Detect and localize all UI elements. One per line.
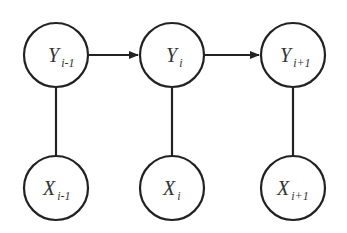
node-var: Y bbox=[48, 44, 61, 66]
node-sub: i bbox=[179, 56, 182, 70]
node-var: X bbox=[162, 177, 176, 199]
node-sub: i bbox=[177, 189, 180, 203]
node-var: Y bbox=[280, 44, 293, 66]
node-sub: i+1 bbox=[291, 189, 308, 203]
node-var: Y bbox=[166, 44, 179, 66]
node-y-cur: Yi bbox=[140, 23, 204, 87]
node-sub: i+1 bbox=[293, 56, 310, 70]
node-var: X bbox=[276, 177, 290, 199]
node-y-prev: Yi-1 bbox=[24, 23, 88, 87]
node-y-next: Yi+1 bbox=[261, 23, 325, 87]
node-sub: i-1 bbox=[57, 189, 70, 203]
graphical-model-diagram: Yi-1 Yi Yi+1 Xi-1 Xi Xi+1 bbox=[0, 0, 347, 233]
node-var: X bbox=[42, 177, 56, 199]
node-x-next: Xi+1 bbox=[261, 156, 325, 220]
node-sub: i-1 bbox=[61, 56, 74, 70]
node-x-prev: Xi-1 bbox=[24, 156, 88, 220]
node-x-cur: Xi bbox=[140, 156, 204, 220]
